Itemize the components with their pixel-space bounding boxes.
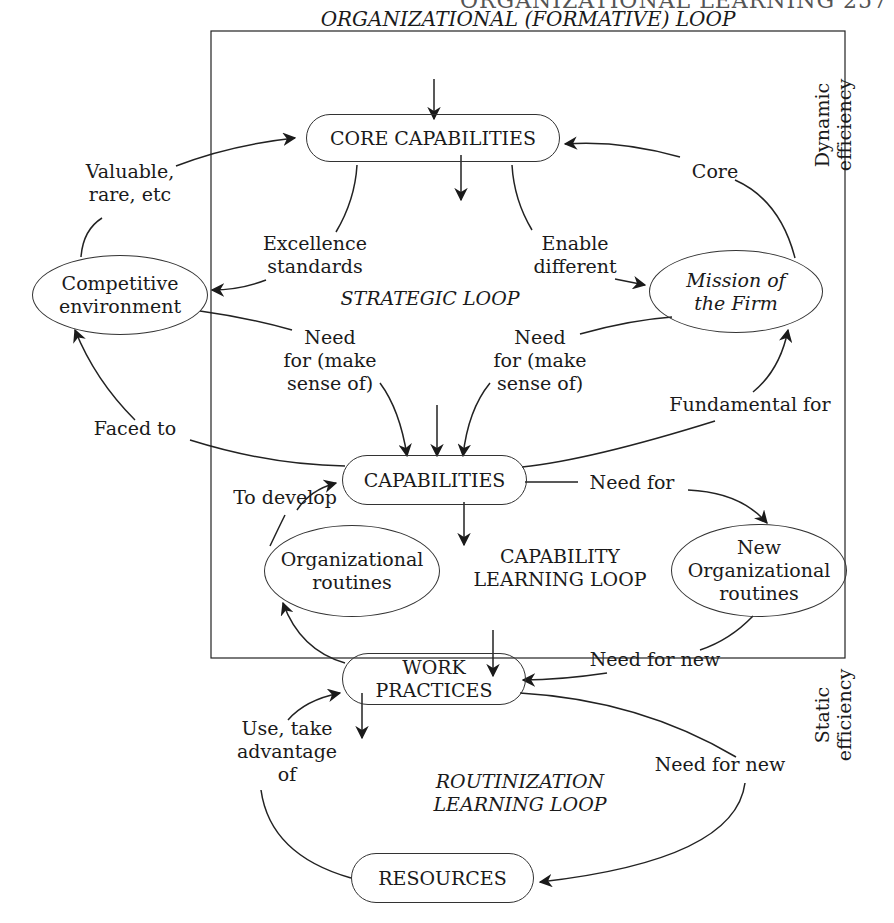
node-label: CORE CAPABILITIES (330, 127, 536, 150)
edge-label-core: Core (685, 160, 745, 183)
edge-label-line: advantage (232, 740, 342, 763)
edge-label-line: Use, take (232, 717, 342, 740)
edge-label-need-right: Need for (make sense of) (480, 326, 600, 395)
edge-label-fundamental: Fundamental for (660, 393, 840, 416)
node-label: Organizational (688, 559, 831, 582)
dynamic-efficiency-label: Dynamic efficiency (811, 75, 861, 175)
edge-label-line: Enable (525, 232, 625, 255)
edge-label-need-left: Need for (make sense of) (270, 326, 390, 395)
frame-title: ORGANIZATIONAL (FORMATIVE) LOOP (211, 8, 845, 31)
capability-loop-label: CAPABILITY LEARNING LOOP (460, 545, 660, 591)
node-label: CAPABILITIES (364, 469, 506, 492)
node-resources[interactable]: RESOURCES (351, 853, 534, 903)
loop-label-line: LEARNING LOOP (460, 568, 660, 591)
edge-label-enable: Enable different (525, 232, 625, 278)
side-label-line: Dynamic (811, 75, 833, 175)
strategic-loop-label: STRATEGIC LOOP (340, 287, 520, 310)
side-label-line: efficiency (833, 75, 855, 175)
node-competitive-environment[interactable]: Competitive environment (32, 255, 208, 335)
edge-label-line: Need (270, 326, 390, 349)
node-label: RESOURCES (378, 867, 507, 890)
node-label: New (737, 536, 781, 559)
edge-label-line: for (make (270, 349, 390, 372)
node-capabilities[interactable]: CAPABILITIES (342, 455, 527, 505)
node-label: Competitive (62, 272, 179, 295)
node-label: WORK (402, 656, 466, 679)
edge-label-line: Excellence (255, 232, 375, 255)
edge-label-line: sense of) (270, 372, 390, 395)
node-work-practices[interactable]: WORK PRACTICES (342, 653, 526, 705)
node-mission-of-the-firm[interactable]: Mission of the Firm (649, 250, 823, 333)
edge-label-line: Valuable, (70, 160, 190, 183)
edge-label-need-for-new-2: Need for new (645, 753, 795, 776)
side-label-line: Static (811, 665, 833, 765)
edge-label-line: standards (255, 255, 375, 278)
edge-label-need-for: Need for (582, 471, 682, 494)
edge-label-faced-to: Faced to (80, 417, 190, 440)
node-label: Organizational (281, 548, 424, 571)
edge-label-line: rare, etc (70, 183, 190, 206)
node-label: the Firm (694, 292, 778, 315)
edge-label-line: of (232, 763, 342, 786)
edge-label-to-develop: To develop (225, 486, 345, 509)
node-label: routines (312, 571, 392, 594)
side-label-line: efficiency (833, 665, 855, 765)
node-label: routines (719, 582, 799, 605)
edge-label-excellence: Excellence standards (255, 232, 375, 278)
node-new-organizational-routines[interactable]: New Organizational routines (671, 524, 847, 617)
edge-label-line: for (make (480, 349, 600, 372)
edge-label-need-for-new-1: Need for new (580, 648, 730, 671)
edge-label-valuable: Valuable, rare, etc (70, 160, 190, 206)
edge-label-line: different (525, 255, 625, 278)
routinization-loop-label: ROUTINIZATION LEARNING LOOP (425, 770, 615, 816)
edge-label-use: Use, take advantage of (232, 717, 342, 786)
node-label: Mission of (686, 269, 785, 292)
node-label: PRACTICES (376, 679, 493, 702)
node-organizational-routines[interactable]: Organizational routines (264, 525, 440, 617)
loop-label-line: LEARNING LOOP (425, 793, 615, 816)
loop-label-line: ROUTINIZATION (425, 770, 615, 793)
node-label: environment (59, 295, 181, 318)
loop-label-line: CAPABILITY (460, 545, 660, 568)
static-efficiency-label: Static efficiency (811, 665, 861, 765)
edge-label-line: sense of) (480, 372, 600, 395)
edge-label-line: Need (480, 326, 600, 349)
node-core-capabilities[interactable]: CORE CAPABILITIES (306, 114, 560, 162)
